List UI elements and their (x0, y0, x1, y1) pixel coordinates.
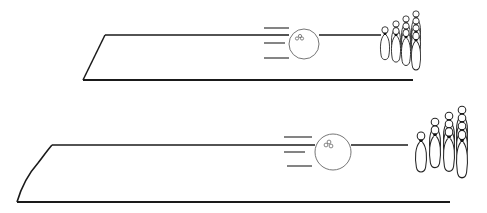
bowling-ball (315, 134, 351, 170)
bottom-lane-foul-edge (17, 145, 52, 202)
top-lane-foul-edge (83, 35, 105, 80)
top-lane (83, 11, 421, 80)
pin-rack (380, 11, 420, 70)
speed-lines (284, 137, 312, 166)
bottom-lane (17, 106, 468, 202)
speed-lines (264, 28, 289, 58)
bowling-illustration (0, 0, 487, 213)
bowling-ball (289, 29, 319, 59)
pin-rack (415, 106, 467, 178)
